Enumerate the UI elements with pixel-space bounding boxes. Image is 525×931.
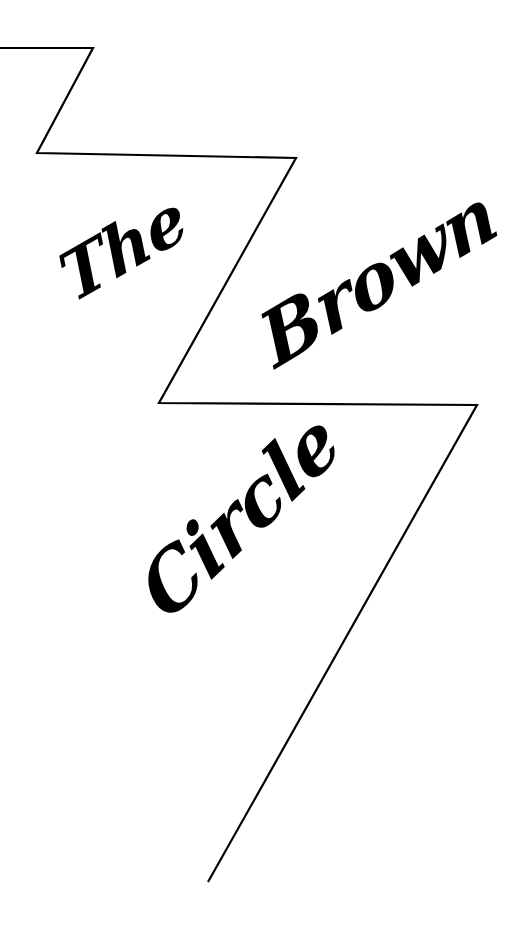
cover-page: The Brown Circle (0, 0, 525, 931)
